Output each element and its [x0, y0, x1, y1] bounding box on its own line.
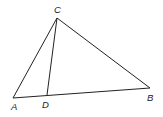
label-c: C [54, 4, 61, 15]
segment-cd [47, 18, 57, 95]
label-d: D [42, 99, 49, 110]
triangle-diagram: C A D B [0, 0, 163, 117]
segment-cb [57, 18, 150, 88]
segment-ab [13, 88, 150, 98]
label-a: A [10, 101, 17, 112]
segment-ac [13, 18, 57, 98]
label-b: B [147, 92, 154, 103]
